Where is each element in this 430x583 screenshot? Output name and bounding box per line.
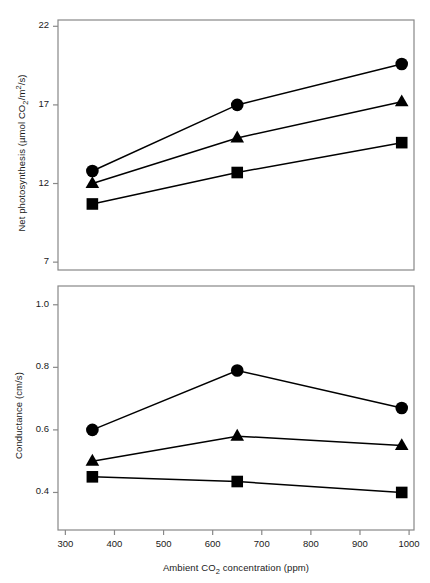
ytick-bottom-label: 0.4 <box>19 485 49 496</box>
superscript-2: 2 <box>14 85 23 89</box>
data-point-circle-2 <box>395 402 408 415</box>
data-point-circle-1 <box>231 99 244 112</box>
ytick-bottom-label: 0.6 <box>19 423 49 434</box>
data-point-circle-1 <box>231 364 244 377</box>
data-point-circle-2 <box>395 58 408 71</box>
y-ticks-top <box>53 26 58 262</box>
xtick-label: 800 <box>291 538 331 549</box>
data-point-square-1 <box>231 167 243 179</box>
series-line-circle <box>92 370 401 429</box>
ytick-top-label: 12 <box>19 177 49 188</box>
data-point-square-0 <box>87 471 99 483</box>
xtick-label: 900 <box>340 538 380 549</box>
plot-frame-bottom <box>58 286 414 530</box>
plot-frame-top <box>58 20 414 270</box>
data-point-triangle-1 <box>230 429 244 441</box>
series-line-square <box>92 143 401 204</box>
series-line-circle <box>92 64 401 171</box>
data-point-square-0 <box>87 198 99 210</box>
xtick-label: 400 <box>94 538 134 549</box>
ytick-top-label: 22 <box>19 19 49 30</box>
figure-container: Net photosynthesis (µmol CO2/m2/s) Condu… <box>0 0 430 583</box>
xtick-label: 500 <box>144 538 184 549</box>
ytick-top-label: 7 <box>19 255 49 266</box>
data-point-square-1 <box>231 476 243 488</box>
chart-canvas <box>0 0 430 583</box>
xtick-label: 700 <box>242 538 282 549</box>
y-axis-title-top: Net photosynthesis (µmol CO2/m2/s) <box>14 37 30 269</box>
data-point-square-2 <box>396 487 408 499</box>
series-line-triangle <box>92 436 401 461</box>
xtick-label: 600 <box>193 538 233 549</box>
series-line-square <box>92 477 401 493</box>
ytick-top-label: 17 <box>19 98 49 109</box>
data-point-square-2 <box>396 137 408 149</box>
ytick-bottom-label: 0.8 <box>19 360 49 371</box>
xtick-label: 1000 <box>389 538 429 549</box>
ytick-bottom-label: 1.0 <box>19 298 49 309</box>
data-point-triangle-2 <box>395 94 409 106</box>
data-point-circle-0 <box>86 424 99 437</box>
y-ticks-bottom <box>53 305 58 493</box>
data-point-triangle-2 <box>395 438 409 450</box>
x-ticks <box>65 530 409 535</box>
series-group-bottom <box>86 364 409 498</box>
series-group-top <box>86 58 409 210</box>
x-axis-title: Ambient CO2 concentration (ppm) <box>58 562 414 576</box>
xtick-label: 300 <box>45 538 85 549</box>
data-point-circle-0 <box>86 165 99 178</box>
